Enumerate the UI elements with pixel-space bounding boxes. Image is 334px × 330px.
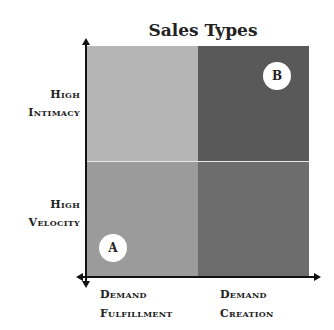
x-label-demand-creation: Demand Creation	[220, 285, 274, 323]
y-label-high-velocity: High Velocity	[29, 196, 80, 232]
y-label-line: High	[28, 86, 80, 104]
x-label-line: Demand	[220, 285, 274, 304]
quadrant-high-velocity-demand-fulfillment	[87, 162, 198, 277]
y-axis	[85, 42, 87, 282]
x-label-line: Creation	[220, 304, 274, 323]
y-label-line: Intimacy	[28, 104, 80, 122]
x-axis	[80, 276, 316, 278]
arrow-right-icon	[314, 273, 321, 281]
x-label-line: Demand	[100, 285, 173, 304]
y-label-line: Velocity	[29, 214, 80, 232]
arrow-up-icon	[82, 38, 90, 45]
y-label-line: High	[29, 196, 80, 214]
arrow-left-icon	[76, 273, 83, 281]
quadrant-high-intimacy-demand-fulfillment	[87, 46, 198, 161]
marker-b: B	[263, 62, 291, 90]
x-label-demand-fulfillment: Demand Fulfillment	[100, 285, 173, 323]
marker-a: A	[99, 234, 127, 262]
x-label-line: Fulfillment	[100, 304, 173, 323]
arrow-down-icon	[82, 281, 90, 288]
quadrant-divider	[87, 161, 309, 162]
y-label-high-intimacy: High Intimacy	[28, 86, 80, 122]
quadrant-high-velocity-demand-creation	[198, 162, 309, 277]
diagram-title: Sales Types	[0, 20, 334, 40]
quadrant-high-intimacy-demand-creation	[198, 46, 309, 161]
